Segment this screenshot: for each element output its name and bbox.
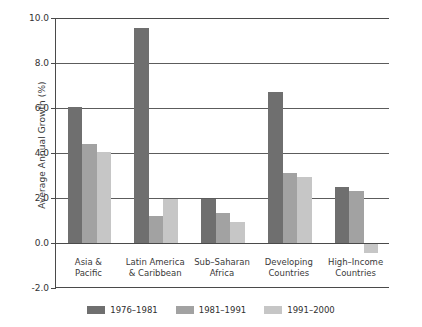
x-axis-category-label: Asia &Pacific: [55, 257, 122, 278]
gridline: [56, 108, 389, 109]
x-axis-category-label-line: Asia &: [55, 257, 122, 268]
y-axis-tick-label: 10.0: [9, 13, 49, 23]
chart-legend: 1976–19811981–19911991–2000: [0, 305, 422, 315]
y-axis-tick-mark: [51, 288, 56, 289]
y-axis-tick-mark: [51, 153, 56, 154]
gridline: [56, 18, 389, 19]
x-axis-category-label-line: Africa: [189, 268, 256, 279]
plot-inner: [56, 18, 389, 287]
bar: [134, 28, 149, 243]
bar: [268, 92, 283, 243]
bar-chart: Average Annual Growth (%) Asia &PacificL…: [0, 0, 422, 327]
y-axis-tick-label: -2.0: [9, 283, 49, 293]
bar: [230, 222, 245, 243]
x-axis-category-label-line: Countries: [322, 268, 389, 279]
y-axis-tick-mark: [51, 108, 56, 109]
bar: [82, 144, 97, 243]
x-axis-category-label-line: Countries: [255, 268, 322, 279]
bar: [97, 152, 112, 243]
y-axis-tick-label: 0.0: [9, 238, 49, 248]
gridline: [56, 63, 389, 64]
bar: [283, 173, 298, 243]
zero-baseline: [56, 243, 389, 244]
bar: [201, 199, 216, 243]
bar: [149, 216, 164, 243]
y-axis-tick-label: 6.0: [9, 103, 49, 113]
y-axis-tick-label: 2.0: [9, 193, 49, 203]
y-axis-tick-label: 4.0: [9, 148, 49, 158]
legend-swatch-icon: [264, 306, 282, 314]
legend-label: 1976–1981: [110, 305, 158, 315]
legend-item[interactable]: 1981–1991: [176, 305, 247, 315]
x-axis-category-label: Latin America& Caribbean: [122, 257, 189, 278]
legend-item[interactable]: 1976–1981: [87, 305, 158, 315]
legend-item[interactable]: 1991–2000: [264, 305, 335, 315]
x-axis-category-label: Sub–SaharanAfrica: [189, 257, 256, 278]
legend-label: 1981–1991: [199, 305, 247, 315]
bar: [335, 187, 350, 243]
y-axis-tick-mark: [51, 63, 56, 64]
x-axis-category-label: High–IncomeCountries: [322, 257, 389, 278]
bar: [216, 213, 231, 243]
legend-swatch-icon: [176, 306, 194, 314]
bar: [349, 191, 364, 243]
x-axis-category-label-line: Developing: [255, 257, 322, 268]
bar: [68, 107, 83, 243]
y-axis-tick-mark: [51, 18, 56, 19]
x-axis-category-label-line: Latin America: [122, 257, 189, 268]
x-axis-category-label-line: Sub–Saharan: [189, 257, 256, 268]
x-axis-category-label-line: & Caribbean: [122, 268, 189, 279]
y-axis-tick-label: 8.0: [9, 58, 49, 68]
plot-area: [55, 18, 389, 288]
x-axis-category-label-line: High–Income: [322, 257, 389, 268]
x-axis-category-label-line: Pacific: [55, 268, 122, 279]
bar: [364, 243, 379, 253]
x-axis-category-label: DevelopingCountries: [255, 257, 322, 278]
y-axis-tick-mark: [51, 198, 56, 199]
bar: [163, 199, 178, 243]
legend-swatch-icon: [87, 306, 105, 314]
legend-label: 1991–2000: [287, 305, 335, 315]
bar: [297, 177, 312, 243]
